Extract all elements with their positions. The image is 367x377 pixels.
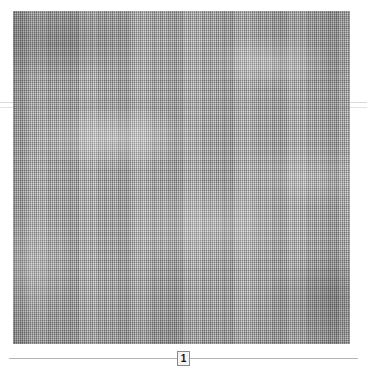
- fold-line-overlay-lower: [13, 107, 350, 108]
- page-image-canvas-scan[interactable]: [13, 11, 350, 344]
- pager-track-right: [190, 358, 358, 359]
- fold-line-overlay-upper: [13, 102, 350, 103]
- page-number-label: 1: [181, 354, 187, 364]
- pager-track-left: [9, 358, 177, 359]
- page-number-indicator[interactable]: 1: [177, 351, 190, 366]
- page-navigator[interactable]: 1: [0, 351, 367, 367]
- scanned-page-viewer: 1: [0, 0, 367, 377]
- vignette-layer: [13, 11, 350, 344]
